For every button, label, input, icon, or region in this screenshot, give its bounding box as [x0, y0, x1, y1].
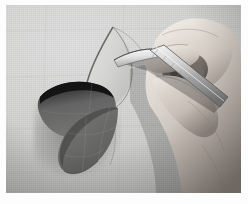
photo-print-border: Hand cutting paper petal shapes with a c… [0, 0, 248, 204]
vignette [6, 5, 241, 193]
photograph: Hand cutting paper petal shapes with a c… [6, 5, 241, 193]
scene [6, 5, 241, 193]
